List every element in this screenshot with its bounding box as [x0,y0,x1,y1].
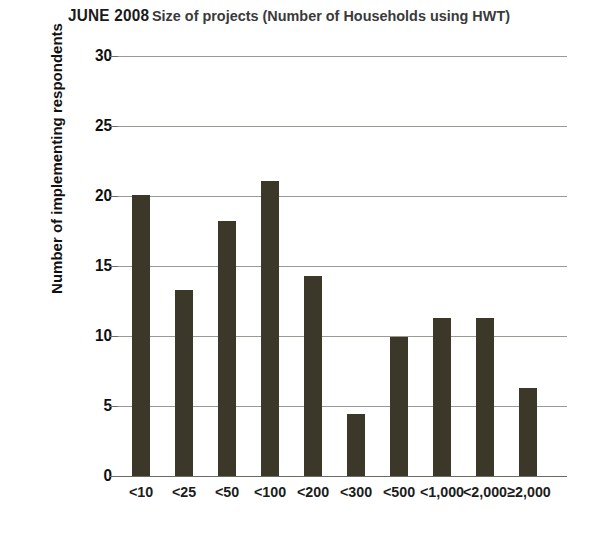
tick-mark [109,196,118,197]
chart-title-date: JUNE 2008 [68,6,149,25]
x-tick-label: <2,000 [463,483,507,501]
x-tick-label: <1,000 [420,483,464,501]
bar[interactable] [433,318,451,476]
bar[interactable] [261,181,279,476]
tick-mark [109,336,118,337]
tick-mark [109,126,118,127]
y-tick-label: 25 [76,116,112,136]
x-tick-label: <200 [297,483,329,501]
bar[interactable] [476,318,494,476]
chart-title: JUNE 2008Size of projects (Number of Hou… [0,6,599,25]
y-tick-label: 0 [76,466,112,486]
tick-mark [109,56,118,57]
x-tick-label: ≥2,000 [507,483,551,501]
y-axis-tick-labels: 30 25 20 15 10 5 0 [72,56,112,476]
bar[interactable] [175,290,193,476]
gridline-0-baseline [118,476,567,477]
x-tick-label: <500 [383,483,415,501]
x-tick-label: <10 [129,483,153,501]
x-tick-label: <50 [215,483,239,501]
tick-mark [109,406,118,407]
x-axis-tick-labels: <10 <25 <50 <100 <200 <300 <500 <1,000 <… [118,483,567,513]
bar[interactable] [390,337,408,476]
x-tick-label: <25 [172,483,196,501]
y-tick-label: 20 [76,186,112,206]
bar[interactable] [132,195,150,476]
tick-mark [109,266,118,267]
tick-mark [109,476,118,477]
x-tick-label: <100 [254,483,286,501]
bar[interactable] [218,221,236,476]
x-tick-label: <300 [340,483,372,501]
y-tick-label: 30 [76,46,112,66]
y-tick-label: 10 [76,326,112,346]
chart-title-subject: Size of projects (Number of Households u… [152,7,510,25]
bars-layer [118,56,567,476]
bar[interactable] [304,276,322,476]
y-tick-label: 5 [76,396,112,416]
y-axis-title: Number of implementing respondents [48,0,65,319]
plot-area [118,56,567,476]
bar[interactable] [519,388,537,476]
y-tick-label: 15 [76,256,112,276]
bar[interactable] [347,414,365,476]
